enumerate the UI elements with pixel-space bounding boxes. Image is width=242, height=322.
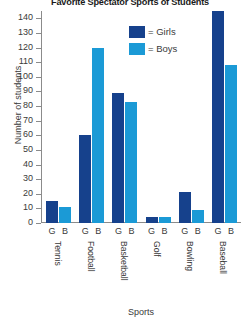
group-label-b: B [191, 226, 205, 237]
y-tick-label: 20 [23, 188, 33, 198]
y-tick-label: 50 [23, 144, 33, 154]
bar [192, 210, 204, 223]
group-label-g: G [145, 226, 159, 237]
group-label-b: B [124, 226, 138, 237]
legend-label-boys: = Boys [148, 43, 177, 54]
bar [125, 102, 137, 223]
group-label-g: G [78, 226, 92, 237]
legend: = Girls = Boys [129, 23, 177, 57]
y-tick-label: 100 [18, 71, 33, 81]
y-tick-label: 30 [23, 173, 33, 183]
legend-item-girls: = Girls [129, 23, 177, 40]
y-tick-label: 70 [23, 115, 33, 125]
y-tick-label: 90 [23, 85, 33, 95]
y-tick-label: 60 [23, 129, 33, 139]
category-label-football: Football [86, 241, 95, 272]
y-tick-label: 10 [23, 202, 33, 212]
category-label-tennis: Tennis [53, 241, 62, 266]
y-tick-label: 110 [19, 56, 33, 66]
bar-chart: Favorite Spectator Sports of Students Nu… [0, 0, 242, 322]
bar [59, 207, 71, 223]
bar [179, 192, 191, 223]
bar [159, 217, 171, 223]
legend-item-boys: = Boys [129, 40, 177, 57]
bar [212, 11, 224, 223]
y-tick-mark [36, 223, 41, 224]
bar [79, 135, 91, 223]
legend-label-girls: = Girls [148, 26, 176, 37]
group-label-b: B [224, 226, 238, 237]
group-label-b: B [58, 226, 72, 237]
category-label-golf: Golf [152, 241, 161, 257]
bar [225, 65, 237, 223]
x-axis-label: Sports [41, 307, 241, 317]
group-label-b: B [158, 226, 172, 237]
y-tick-label: 80 [23, 100, 33, 110]
y-tick-label: 120 [18, 42, 33, 52]
group-label-b: B [91, 226, 105, 237]
y-tick-label: 130 [18, 27, 33, 37]
y-tick-label: 0 [28, 217, 33, 227]
bar [92, 48, 104, 223]
y-tick-label: 140 [18, 12, 33, 22]
legend-swatch-girls [129, 26, 145, 38]
category-label-baseball: Baseball [218, 241, 227, 274]
bar [46, 201, 58, 223]
legend-swatch-boys [129, 43, 145, 55]
y-tick-label: 40 [23, 159, 33, 169]
chart-title: Favorite Spectator Sports of Students [18, 0, 242, 7]
bar [146, 217, 158, 223]
group-label-g: G [211, 226, 225, 237]
group-label-g: G [178, 226, 192, 237]
bar [112, 93, 124, 223]
category-label-basketball: Basketball [119, 241, 128, 281]
category-label-bowling: Bowling [185, 241, 194, 271]
group-label-g: G [111, 226, 125, 237]
group-label-g: G [45, 226, 59, 237]
